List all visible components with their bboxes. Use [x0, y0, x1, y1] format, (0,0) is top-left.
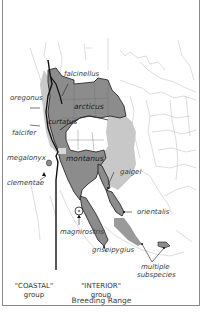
label-megalonyx: megalonyx — [7, 155, 46, 162]
label-montanus: montanus — [66, 155, 104, 163]
label-gaigei: gaigei — [120, 169, 141, 176]
magnirostris-dot — [78, 210, 81, 213]
label-falcinellus: falcinellus — [64, 71, 99, 78]
light-patch — [58, 148, 66, 154]
label-arcticus: arcticus — [74, 103, 104, 111]
map-caption: Breeding Range — [0, 296, 203, 305]
range-finger-east — [106, 190, 124, 216]
label-multiple: multiple — [141, 264, 170, 271]
coastal-group-name: "COASTAL" — [12, 282, 56, 291]
label-falcifer: falcifer — [12, 130, 36, 137]
label-curtatus: curtatus — [48, 119, 77, 126]
label-magnirostris: magnirostris — [60, 229, 104, 236]
label-orientalis: orientalis — [137, 209, 169, 216]
label-oregonus: oregonus — [10, 95, 43, 102]
mexico-plateau — [114, 218, 142, 246]
clementae-island — [46, 160, 51, 166]
label-griseipygius: griseipygius — [92, 247, 134, 254]
label-clementae: clementae — [7, 180, 44, 187]
range-finger-west — [80, 196, 108, 246]
interior-group-name: "INTERIOR" — [78, 282, 124, 291]
label-subspecies: subspecies — [137, 272, 176, 279]
